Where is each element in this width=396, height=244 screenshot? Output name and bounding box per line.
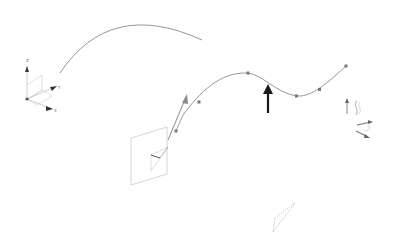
control-point[interactable] (198, 101, 201, 104)
control-point[interactable] (318, 88, 321, 91)
tangent-arrow-icon[interactable] (182, 94, 188, 104)
manipulator-x-arrow-icon[interactable] (368, 120, 373, 124)
origin-point (25, 97, 28, 100)
x-axis-arrow-icon (46, 106, 53, 111)
control-point[interactable] (175, 130, 178, 133)
arc-curve[interactable] (60, 25, 202, 73)
rotate-handle-icon[interactable] (355, 101, 357, 115)
direction-arrow-icon[interactable] (263, 84, 273, 94)
scene-canvas[interactable]: Z Y X (0, 0, 396, 244)
spline-curve[interactable] (183, 66, 346, 115)
z-axis-label: Z (26, 58, 29, 63)
rotate-handle-shadow (359, 102, 361, 114)
control-point[interactable] (247, 72, 250, 75)
move-rotate-manipulator[interactable] (345, 98, 373, 138)
control-point[interactable] (345, 65, 348, 68)
coordinate-triad: Z Y X (25, 58, 61, 113)
x-axis-label: X (54, 108, 57, 113)
z-axis-arrow-icon (25, 66, 29, 72)
y-axis-arrow-icon (50, 86, 57, 91)
y-axis-label: Y (57, 85, 61, 90)
manipulator-z-arrow-icon[interactable] (364, 134, 370, 138)
reference-triangle[interactable] (273, 203, 295, 232)
yz-plane-indicator (27, 75, 42, 100)
cad-viewport[interactable]: Z Y X (0, 0, 396, 244)
manipulator-up-arrow-icon[interactable] (345, 98, 349, 103)
tangent-line (168, 97, 186, 140)
control-point[interactable] (295, 95, 298, 98)
spline-control-points (175, 65, 348, 133)
